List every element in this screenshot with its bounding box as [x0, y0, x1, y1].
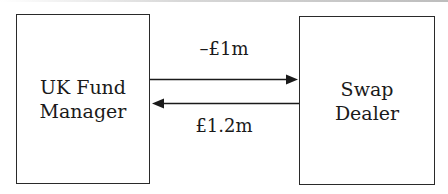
flow-arrows — [0, 0, 448, 194]
arrow-left-icon — [152, 99, 299, 109]
arrow-right-icon — [150, 75, 298, 85]
